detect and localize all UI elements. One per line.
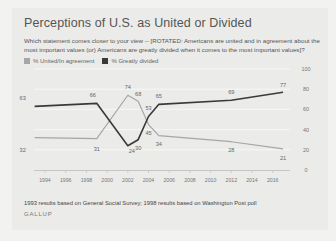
svg-text:1994: 1994 bbox=[39, 177, 51, 183]
svg-text:2004: 2004 bbox=[143, 177, 155, 183]
data-label: 28 bbox=[228, 147, 234, 153]
svg-text:80: 80 bbox=[303, 86, 309, 92]
svg-text:2014: 2014 bbox=[246, 177, 258, 183]
svg-text:2008: 2008 bbox=[184, 177, 196, 183]
data-label: 66 bbox=[90, 92, 96, 98]
svg-text:2012: 2012 bbox=[226, 177, 238, 183]
data-labels: 32317468453428216366243053656977 bbox=[20, 82, 287, 161]
svg-text:100: 100 bbox=[301, 66, 310, 72]
y-axis-labels: 020406080100 bbox=[301, 66, 310, 173]
svg-text:1998: 1998 bbox=[81, 177, 93, 183]
svg-text:2002: 2002 bbox=[122, 177, 134, 183]
data-label: 68 bbox=[135, 91, 141, 97]
svg-text:20: 20 bbox=[303, 147, 309, 153]
data-label: 32 bbox=[20, 147, 26, 153]
data-label: 24 bbox=[129, 148, 135, 154]
svg-text:2016: 2016 bbox=[267, 177, 279, 183]
data-label: 45 bbox=[145, 130, 151, 136]
svg-text:0: 0 bbox=[304, 167, 307, 173]
data-label: 34 bbox=[156, 141, 162, 147]
gridlines bbox=[34, 69, 290, 150]
data-label: 65 bbox=[156, 93, 162, 99]
data-label: 74 bbox=[125, 84, 131, 90]
svg-text:2006: 2006 bbox=[163, 177, 175, 183]
data-label: 31 bbox=[94, 146, 100, 152]
data-label: 77 bbox=[280, 82, 286, 88]
data-label: 30 bbox=[135, 145, 141, 151]
gallup-logo: GALLUP bbox=[24, 211, 52, 217]
footnote: 1993 results based on General Social Sur… bbox=[24, 200, 256, 206]
svg-text:1996: 1996 bbox=[60, 177, 72, 183]
svg-text:40: 40 bbox=[303, 127, 309, 133]
x-axis: 1994199619982000200220042006200820102012… bbox=[34, 171, 290, 184]
data-label: 69 bbox=[228, 89, 234, 95]
svg-text:60: 60 bbox=[303, 106, 309, 112]
data-label: 63 bbox=[20, 95, 26, 101]
data-label: 53 bbox=[145, 105, 151, 111]
svg-text:2000: 2000 bbox=[101, 177, 113, 183]
svg-text:2010: 2010 bbox=[205, 177, 217, 183]
data-label: 21 bbox=[280, 155, 286, 161]
